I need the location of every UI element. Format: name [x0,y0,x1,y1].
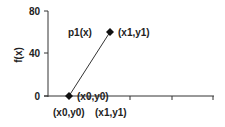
point-x1y1-label: (x1,y1) [118,27,150,38]
x-tick-label-x0y0: (x0,y0) [53,107,85,118]
y-tick-label-80: 80 [29,6,41,17]
y-tick-label-0: 0 [34,91,40,102]
curve-label: p1(x) [68,27,92,38]
y-tick-label-40: 40 [29,48,41,59]
chart: 80 40 0 f(x) p1(x) (x1,y1) (x0,y0) (x0,y… [0,0,225,127]
x-tick-label-x1y1: (x1,y1) [95,107,127,118]
p1-line [69,32,110,96]
point-x1y1-marker [106,28,114,36]
point-x0y0-marker [65,92,73,100]
point-x0y0-label: (x0,y0) [77,91,109,102]
y-axis-label: f(x) [13,47,24,63]
